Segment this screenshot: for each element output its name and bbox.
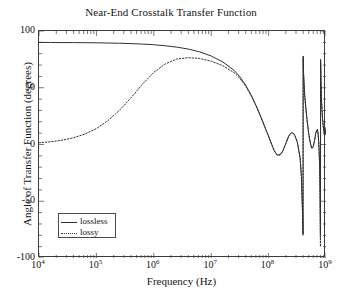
- legend-label: lossy: [80, 227, 99, 237]
- legend-label: lossless: [80, 216, 108, 226]
- chart-title: Near-End Crosstalk Transfer Function: [0, 6, 342, 18]
- x-tick-label: 108: [261, 259, 275, 270]
- series-line-lossless: [39, 42, 326, 236]
- x-tick-label: 105: [89, 259, 103, 270]
- chart-legend: losslesslossy: [58, 213, 116, 238]
- chart-figure: Near-End Crosstalk Transfer Function Ang…: [0, 0, 342, 302]
- legend-item-lossy: lossy: [61, 228, 115, 239]
- y-tick-label: 0: [30, 138, 35, 149]
- y-tick-label: -50: [22, 194, 35, 205]
- x-tick-labels: 104105106107108109: [38, 259, 325, 275]
- y-tick-label: 100: [20, 24, 35, 35]
- x-tick-label: 109: [318, 259, 332, 270]
- y-tick-label: 50: [25, 81, 35, 92]
- x-tick-label: 106: [146, 259, 160, 270]
- x-axis-label: Frequency (Hz): [38, 275, 325, 287]
- x-tick-label: 107: [203, 259, 217, 270]
- x-tick-label: 104: [31, 259, 45, 270]
- legend-swatch-dotted-icon: [61, 233, 77, 234]
- y-tick-labels: 100500-50-100: [2, 30, 35, 257]
- legend-swatch-solid-icon: [61, 222, 77, 223]
